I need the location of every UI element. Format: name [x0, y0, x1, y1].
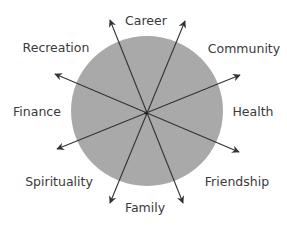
center-dot — [144, 111, 147, 114]
label-health: Health — [232, 104, 273, 119]
wheel-circle — [71, 36, 223, 186]
wheel-of-life-diagram: Career Community Health Friendship Famil… — [0, 0, 287, 227]
label-friendship: Friendship — [205, 174, 269, 189]
label-career: Career — [125, 13, 168, 28]
label-finance: Finance — [13, 104, 61, 119]
label-spirituality: Spirituality — [25, 174, 93, 189]
label-recreation: Recreation — [23, 40, 90, 55]
label-family: Family — [125, 200, 166, 215]
label-community: Community — [208, 41, 281, 56]
